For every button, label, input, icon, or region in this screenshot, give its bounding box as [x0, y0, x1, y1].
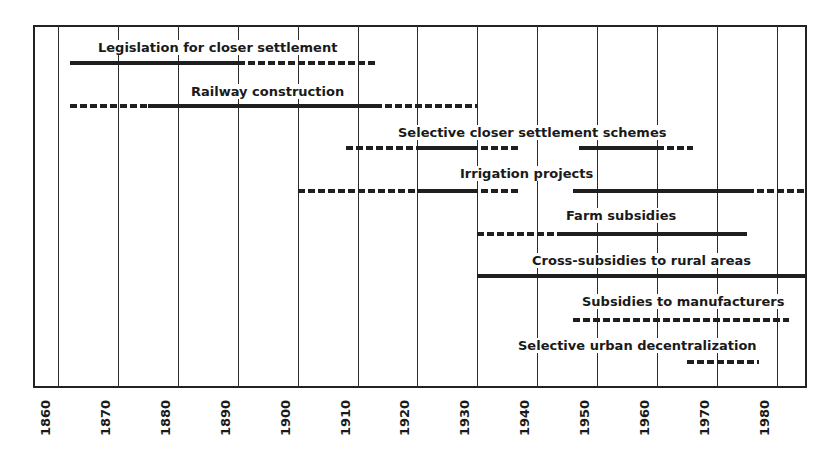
x-tick-label: 1960: [637, 398, 651, 438]
gridline-1880: [178, 25, 179, 388]
dashed-segment: [573, 318, 789, 322]
gridline-1900: [298, 25, 299, 388]
dashed-segment: [346, 146, 418, 150]
row-label: Legislation for closer settlement: [95, 40, 340, 55]
solid-segment: [561, 232, 747, 236]
dashed-segment: [471, 146, 519, 150]
gridline-1870: [118, 25, 119, 388]
solid-segment: [573, 189, 747, 193]
gridline-1890: [238, 25, 239, 388]
dashed-segment: [238, 61, 376, 65]
gridline-1960: [657, 25, 658, 388]
row-label: Subsidies to manufacturers: [579, 294, 787, 309]
gridline-1940: [537, 25, 538, 388]
dashed-segment: [687, 360, 759, 364]
row-label: Irrigation projects: [457, 166, 596, 181]
solid-segment: [579, 146, 657, 150]
gridline-1910: [358, 25, 359, 388]
x-tick-label: 1980: [757, 398, 771, 438]
gridline-1860: [58, 25, 59, 388]
x-tick-label: 1930: [457, 398, 471, 438]
x-tick-label: 1890: [218, 398, 232, 438]
x-tick-label: 1950: [577, 398, 591, 438]
solid-segment: [477, 274, 806, 278]
row-label: Farm subsidies: [563, 208, 679, 223]
solid-segment: [70, 61, 238, 65]
x-tick-label: 1880: [158, 398, 172, 438]
row-label: Selective urban decentralization: [515, 338, 760, 353]
x-tick-label: 1860: [38, 398, 52, 438]
dashed-segment: [471, 189, 519, 193]
x-tick-label: 1910: [338, 398, 352, 438]
gridline-1920: [417, 25, 418, 388]
dashed-segment: [70, 104, 148, 108]
dashed-segment: [477, 232, 561, 236]
row-label: Selective closer settlement schemes: [395, 125, 669, 140]
gridline-1970: [717, 25, 718, 388]
gridline-1930: [477, 25, 478, 388]
x-tick-label: 1870: [98, 398, 112, 438]
x-tick-label: 1920: [397, 398, 411, 438]
gridline-1980: [777, 25, 778, 388]
x-tick-label: 1970: [697, 398, 711, 438]
x-tick-label: 1900: [278, 398, 292, 438]
policy-timeline-chart: Legislation for closer settlementRailway…: [0, 0, 833, 453]
gridline-1950: [597, 25, 598, 388]
dashed-segment: [298, 189, 418, 193]
solid-segment: [148, 104, 376, 108]
dashed-segment: [747, 189, 807, 193]
solid-segment: [417, 146, 471, 150]
solid-segment: [417, 189, 471, 193]
dashed-segment: [375, 104, 477, 108]
dashed-segment: [657, 146, 693, 150]
row-label: Cross-subsidies to rural areas: [529, 253, 754, 268]
x-tick-label: 1940: [517, 398, 531, 438]
chart-frame: [33, 25, 807, 388]
row-label: Railway construction: [188, 84, 347, 99]
